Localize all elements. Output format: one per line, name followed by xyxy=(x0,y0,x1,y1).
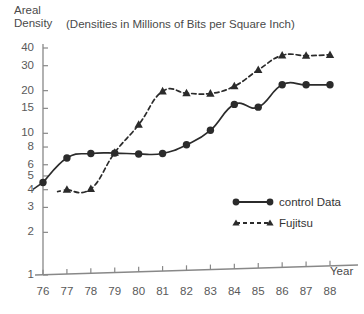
plot-area xyxy=(0,0,364,314)
x-tick-label: 85 xyxy=(247,285,269,297)
data-point xyxy=(254,66,262,74)
data-point xyxy=(159,150,166,157)
y-tick-label: 5 xyxy=(10,170,34,181)
data-point xyxy=(255,103,262,110)
data-point xyxy=(302,81,309,88)
legend-label-control-data: control Data xyxy=(279,196,341,208)
y-axis-tick-labels: 40302015108654321 xyxy=(8,0,34,314)
series-control-data xyxy=(33,81,334,189)
areal-density-chart: ArealDensity (Densities in Millions of B… xyxy=(0,0,364,314)
x-tick-label: 78 xyxy=(80,285,102,297)
y-tick-label: 2 xyxy=(10,226,34,237)
y-tick-label: 3 xyxy=(10,201,34,212)
y-tick-label: 15 xyxy=(10,102,34,113)
legend-item-fujitsu: Fujitsu xyxy=(232,212,341,233)
y-tick-label: 30 xyxy=(10,60,34,71)
data-point xyxy=(207,127,214,134)
legend-swatch-control-data xyxy=(232,195,274,209)
data-point xyxy=(135,150,142,157)
x-tick-label: 83 xyxy=(199,285,221,297)
x-tick-label: 86 xyxy=(271,285,293,297)
y-tick-label: 1 xyxy=(10,269,34,280)
y-tick-label: 4 xyxy=(10,184,34,195)
data-point xyxy=(39,179,46,186)
data-point xyxy=(278,81,285,88)
x-tick-label: 84 xyxy=(223,285,245,297)
x-tick-label: 88 xyxy=(319,285,341,297)
data-point xyxy=(63,185,71,193)
chart-legend: control Data Fujitsu xyxy=(232,191,341,233)
legend-label-fujitsu: Fujitsu xyxy=(279,217,313,229)
legend-swatch-fujitsu xyxy=(232,216,274,230)
x-axis-line xyxy=(35,265,358,275)
y-tick-label: 10 xyxy=(10,127,34,138)
x-axis-title: Year xyxy=(330,265,353,277)
data-point xyxy=(158,87,166,95)
data-point xyxy=(63,154,70,161)
chart-subtitle: (Densities in Millions of Bits per Squar… xyxy=(66,18,295,30)
y-tick-label: 20 xyxy=(10,85,34,96)
x-tick-label: 79 xyxy=(104,285,126,297)
data-point xyxy=(326,81,333,88)
x-tick-label: 82 xyxy=(176,285,198,297)
y-tick-label: 40 xyxy=(10,42,34,53)
series-fujitsu xyxy=(57,50,334,192)
series-line xyxy=(43,83,330,183)
x-tick-label: 80 xyxy=(128,285,150,297)
data-point xyxy=(231,101,238,108)
x-tick-label: 87 xyxy=(295,285,317,297)
data-point xyxy=(87,150,94,157)
x-tick-label: 81 xyxy=(152,285,174,297)
x-tick-label: 77 xyxy=(56,285,78,297)
series-line xyxy=(67,54,330,193)
x-tick-label: 76 xyxy=(32,285,54,297)
data-point xyxy=(206,89,214,97)
legend-item-control-data: control Data xyxy=(232,191,341,212)
y-tick-label: 8 xyxy=(10,141,34,152)
data-point xyxy=(183,141,190,148)
data-point xyxy=(87,185,95,193)
